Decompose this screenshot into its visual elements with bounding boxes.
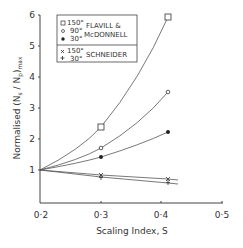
svg-text:0·5: 0·5 — [215, 210, 229, 220]
svg-text:0·4: 0·4 — [154, 210, 169, 220]
x-tick-labels: 0·2 0·3 0·4 0·5 — [34, 210, 229, 220]
chart: 1 2 3 4 5 6 0·2 0·3 0·4 0·5 Scaling Inde… — [0, 0, 243, 248]
svg-text:30°: 30° — [70, 55, 82, 63]
svg-text:SCHNEIDER: SCHNEIDER — [86, 51, 127, 59]
legend: 150° 90° 30° FLAVILL & McDONNELL 150° 30… — [57, 15, 137, 63]
marker-square — [98, 124, 104, 130]
svg-text:6: 6 — [29, 10, 35, 20]
y-tick-labels: 1 2 3 4 5 6 — [29, 10, 35, 175]
legend-open-circle-icon — [62, 30, 65, 33]
svg-text:3: 3 — [29, 103, 35, 113]
marker-filled-circle — [99, 155, 103, 159]
svg-text:150°: 150° — [67, 47, 84, 55]
line-sch-150 — [40, 170, 178, 180]
svg-text:150°: 150° — [67, 19, 84, 27]
legend-filled-circle-icon — [61, 37, 64, 40]
svg-text:4: 4 — [29, 72, 35, 82]
svg-text:5: 5 — [29, 41, 35, 51]
svg-text:0·3: 0·3 — [94, 210, 108, 220]
svg-text:30°: 30° — [70, 35, 82, 43]
legend-square-icon — [61, 21, 65, 25]
y-axis-label: Normalised (Ns / Np)max — [12, 56, 24, 160]
svg-text:2: 2 — [29, 134, 35, 144]
marker-plus — [99, 175, 103, 180]
svg-text:McDONNELL: McDONNELL — [84, 31, 128, 39]
marker-open-circle — [166, 90, 170, 94]
x-axis-label: Scaling Index, S — [96, 226, 168, 236]
line-fm-90 — [40, 92, 168, 170]
svg-text:FLAVILL &: FLAVILL & — [86, 22, 121, 30]
line-sch-30 — [40, 170, 178, 184]
svg-text:90°: 90° — [70, 27, 82, 35]
marker-filled-circle — [166, 130, 170, 134]
marker-open-circle — [99, 146, 103, 150]
svg-text:1: 1 — [29, 165, 35, 175]
line-fm-30 — [40, 132, 168, 170]
marker-square — [165, 14, 171, 20]
svg-text:0·2: 0·2 — [34, 210, 48, 220]
